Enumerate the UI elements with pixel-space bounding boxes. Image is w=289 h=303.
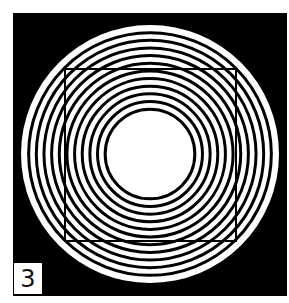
panel-label-text: 3 xyxy=(20,267,35,291)
illusion-graphic xyxy=(0,0,289,303)
illusion-figure: 3 xyxy=(0,0,289,303)
panel-label: 3 xyxy=(13,262,43,295)
